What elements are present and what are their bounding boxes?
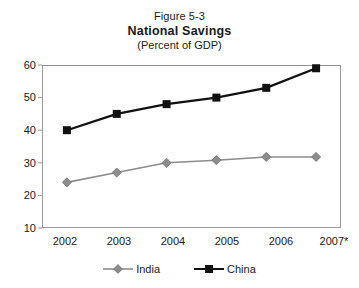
legend-item-india[interactable]: India — [103, 263, 160, 275]
data-point-india-2006 — [262, 152, 271, 161]
series-india — [62, 152, 320, 187]
data-point-india-2007 — [311, 152, 320, 161]
legend-item-china[interactable]: China — [194, 263, 256, 275]
data-point-india-2003 — [112, 168, 121, 177]
legend-label-china: China — [227, 264, 256, 275]
data-point-india-2002 — [62, 178, 71, 187]
data-point-china-2003 — [113, 110, 121, 118]
data-point-china-2007 — [312, 64, 320, 72]
chart-data-layer — [0, 0, 359, 288]
figure-container: Figure 5-3 National Savings (Percent of … — [0, 0, 359, 288]
legend-label-india: India — [136, 264, 160, 275]
chart-legend: India China — [0, 263, 359, 275]
data-point-india-2004 — [162, 158, 171, 167]
india-legend-marker-icon — [103, 263, 133, 275]
data-point-china-2005 — [212, 94, 220, 102]
series-china — [63, 64, 320, 134]
data-point-china-2006 — [262, 84, 270, 92]
y-axis-ticks — [38, 65, 42, 228]
series-line-china — [67, 68, 316, 130]
series-layer — [62, 64, 320, 187]
data-point-india-2005 — [212, 156, 221, 165]
data-point-china-2002 — [63, 126, 71, 134]
series-line-india — [67, 157, 316, 182]
data-point-china-2004 — [163, 100, 171, 108]
china-legend-marker-icon — [194, 263, 224, 275]
